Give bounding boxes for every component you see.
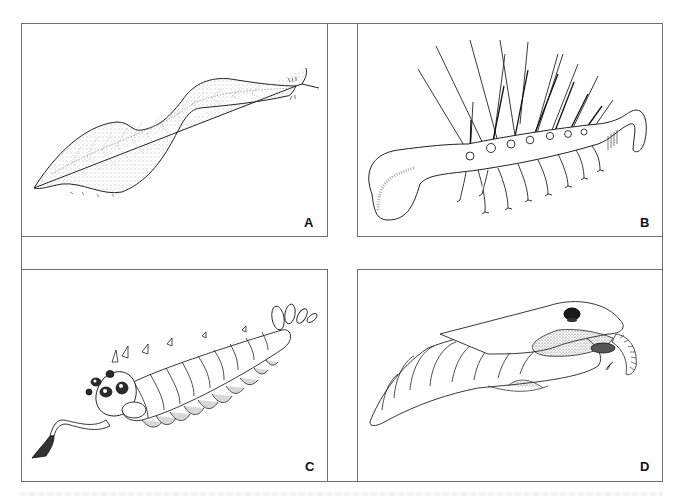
leaf-worm-drawing — [22, 24, 329, 238]
spined-worm-drawing — [358, 24, 664, 238]
panel-label-a: A — [304, 216, 313, 229]
five-eyed-animal-drawing — [22, 270, 329, 483]
panel-d: D — [357, 269, 663, 482]
panel-b: B — [357, 23, 663, 237]
panel-a: A — [21, 23, 328, 237]
panel-label-d: D — [640, 460, 649, 473]
panel-label-c: C — [305, 460, 314, 473]
arthropod-drawing — [358, 270, 664, 483]
panel-c: C — [21, 269, 328, 482]
panel-label-b: B — [640, 216, 649, 229]
caption-bleed-through — [20, 492, 663, 496]
